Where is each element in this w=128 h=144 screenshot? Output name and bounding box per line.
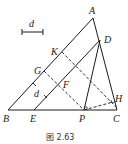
point-label-f: F: [62, 79, 70, 90]
point-label-k: K: [50, 46, 59, 57]
point-label-g: G: [34, 65, 41, 76]
point-label-e: E: [29, 113, 36, 124]
figure-caption: 图 2.63: [46, 133, 74, 142]
segment-de: [34, 40, 100, 110]
scale-bar-label: d: [29, 18, 35, 29]
point-label-b: B: [3, 113, 9, 124]
right-angle-marks: [84, 100, 115, 110]
dashed-ph: [84, 102, 113, 110]
point-label-c: C: [113, 113, 120, 124]
point-label-d: D: [103, 34, 112, 45]
point-label-h: H: [114, 93, 123, 104]
segment-dp: [84, 40, 100, 110]
point-label-a: A: [88, 5, 96, 16]
scale-bar: [22, 29, 43, 35]
side-ab: [8, 18, 93, 110]
dashed-gp: [44, 71, 84, 110]
distance-label: d: [34, 88, 40, 99]
point-label-p: P: [78, 113, 85, 124]
geometry-diagram: d d A D K G F H B E P C 图 2.63: [0, 0, 128, 144]
